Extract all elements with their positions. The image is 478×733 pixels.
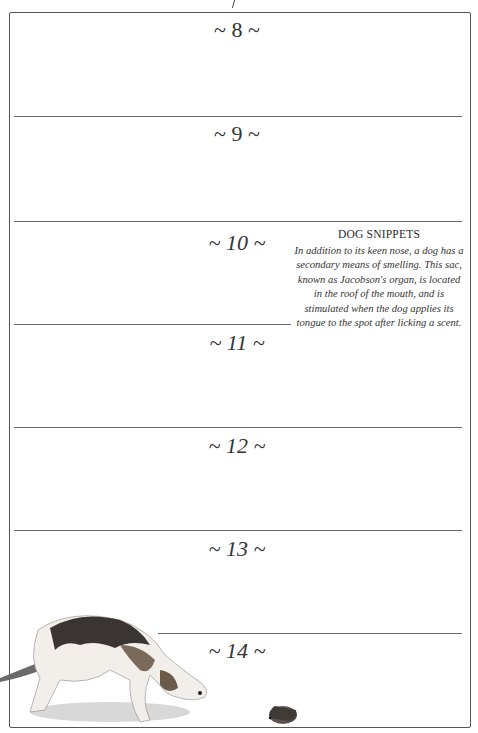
hedgehog-icon [269,706,297,724]
snippet-title: DOG SNIPPETS [294,228,464,240]
divider-10-11 [14,324,291,325]
day-label-12: ~ 12 ~ [187,433,287,459]
divider-8-9 [14,116,462,117]
day-label-8: ~ 8 ~ [187,17,287,43]
top-binding-mark [232,0,239,8]
day-label-9: ~ 9 ~ [187,121,287,147]
divider-12-13 [14,530,462,531]
day-label-11: ~ 11 ~ [187,330,287,356]
divider-9-10 [14,221,462,222]
beagle-dog-icon [0,616,207,722]
day-label-13: ~ 13 ~ [187,536,287,562]
dog-snippets-box: DOG SNIPPETS In addition to its keen nos… [294,228,464,330]
beagle-hedgehog-illustration [0,600,300,730]
snippet-body: In addition to its keen nose, a dog has … [294,244,464,330]
divider-11-12 [14,427,462,428]
day-label-10: ~ 10 ~ [187,230,287,256]
